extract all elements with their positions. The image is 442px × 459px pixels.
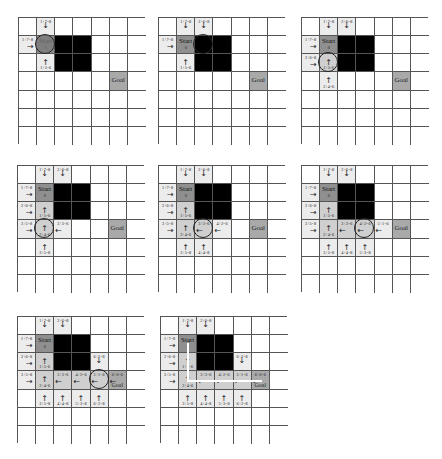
- grid-panel-3: 1+7=8↓2+6=8↓1+7=8→Start02+6=8→1+5=6↑2+4=…: [301, 17, 428, 144]
- arrow-up-icon: ↑: [77, 395, 84, 403]
- grid-cell: [55, 18, 73, 36]
- obstacle-cell: [338, 184, 356, 202]
- grid-cell: [19, 72, 37, 90]
- arrow-up-icon: ↑: [41, 376, 48, 384]
- grid-cell: [302, 72, 320, 90]
- arrow-up-icon: ↑: [325, 225, 332, 233]
- grid-cell: [55, 72, 73, 90]
- grid-cell: [411, 239, 429, 257]
- arrow-down-icon: ↓: [343, 22, 350, 30]
- grid-cell: [320, 257, 338, 275]
- grid-cell: [37, 91, 55, 109]
- goal-cell: Goal: [110, 72, 128, 90]
- open-cell: 1+7=8→: [18, 335, 36, 353]
- grid-cell: [393, 184, 411, 202]
- grid-cell: [232, 54, 250, 72]
- grid-cell: [375, 202, 393, 220]
- grid-cell: [213, 18, 231, 36]
- grid-cell: [268, 257, 286, 275]
- open-cell: 2+6=8→: [18, 202, 36, 220]
- open-cell: 3+5=8↑: [36, 390, 54, 408]
- goal-label: Goal: [250, 76, 267, 84]
- start-cell: Start0: [37, 36, 55, 54]
- grid-cell: [73, 109, 91, 127]
- grid-cell: [18, 239, 36, 257]
- grid-cell: [159, 166, 177, 184]
- obstacle-cell: [356, 54, 374, 72]
- closed-cell: 3+3=6←: [54, 371, 72, 389]
- grid-cell: [109, 275, 127, 293]
- arrow-right-icon: →: [167, 227, 174, 235]
- grid-cell: [91, 275, 109, 293]
- grid-cell: [109, 184, 127, 202]
- goal-cell: Goal: [393, 220, 411, 238]
- arrow-right-icon: →: [169, 378, 176, 386]
- arrow-right-icon: →: [26, 227, 33, 235]
- arrow-down-icon: ↓: [182, 170, 189, 178]
- grid-cell: [232, 18, 250, 36]
- grid-cell: [91, 184, 109, 202]
- grid-cell: [393, 275, 411, 293]
- start-cost: 0: [320, 193, 337, 198]
- grid-panel-1: 1+7=8↓1+7=8→Start01+5=6↑Goal: [18, 17, 145, 144]
- goal-label: Goal: [393, 224, 410, 232]
- grid-cell: [72, 426, 90, 444]
- arrow-down-icon: ↓: [96, 357, 103, 365]
- grid-cell: [109, 202, 127, 220]
- grid-cell: [127, 335, 145, 353]
- grid-cell: [250, 202, 268, 220]
- grid-cell: [19, 54, 37, 72]
- grid-cell: [213, 166, 231, 184]
- grid-cell: [72, 239, 90, 257]
- closed-cell: 2+4=6↑: [320, 220, 338, 238]
- grid-cell: [215, 426, 233, 444]
- grid-cell: [213, 109, 231, 127]
- grid-cell: [268, 239, 286, 257]
- start-label: Start: [36, 185, 53, 193]
- grid-cell: [268, 36, 286, 54]
- grid-cell: [195, 275, 213, 293]
- grid-cell: [268, 54, 286, 72]
- grid-cell: [91, 239, 109, 257]
- open-cell: 5+3=8↑: [215, 390, 233, 408]
- closed-cell: 4+2=6←: [72, 371, 90, 389]
- grid-cell: [161, 317, 179, 335]
- grid-cell: [161, 390, 179, 408]
- grid-cell: [411, 91, 429, 109]
- arrow-right-icon: →: [310, 227, 317, 235]
- grid-cell: [356, 72, 374, 90]
- closed-cell: 1+5=6↑: [177, 202, 195, 220]
- grid-cell: [302, 109, 320, 127]
- grid-cell: [109, 257, 127, 275]
- arrow-right-icon: →: [167, 209, 174, 217]
- obstacle-cell: [54, 184, 72, 202]
- arrow-down-icon: ↓: [41, 170, 48, 178]
- closed-cell: 2+4=6↑: [36, 371, 54, 389]
- grid-cell: [177, 127, 195, 145]
- grid-cell: [411, 54, 429, 72]
- arrow-down-icon: ↓: [59, 321, 66, 329]
- grid-cell: [375, 127, 393, 145]
- open-cell: 1+7=8→: [159, 184, 177, 202]
- grid-cell: [375, 109, 393, 127]
- start-label: Start: [320, 37, 337, 45]
- obstacle-cell: [195, 36, 213, 54]
- grid-cell: [302, 257, 320, 275]
- grid-cell: [232, 239, 250, 257]
- start-cell: Start0: [177, 184, 195, 202]
- grid-cell: [234, 317, 252, 335]
- open-cell: 1+5=6↑: [177, 54, 195, 72]
- start-cost: 0: [320, 45, 337, 50]
- grid-cell: [36, 408, 54, 426]
- open-cell: 1+5=6↑: [37, 54, 55, 72]
- grid-cell: [128, 91, 146, 109]
- grid-cell: [161, 426, 179, 444]
- grid-cell: [232, 184, 250, 202]
- grid-cell: [55, 127, 73, 145]
- goal-cell: 6+0=6←Goal: [109, 371, 127, 389]
- grid-cell: [356, 166, 374, 184]
- grid-cell: [411, 36, 429, 54]
- obstacle-cell: [215, 335, 233, 353]
- grid-cell: [128, 54, 146, 72]
- open-cell: 1+7=8↓: [179, 317, 197, 335]
